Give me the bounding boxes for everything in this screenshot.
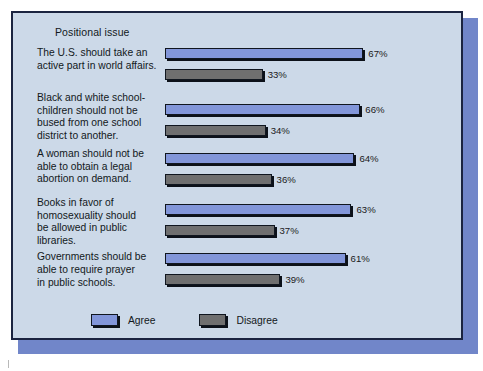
chart-row: The U.S. should take an active part in w… [13, 43, 461, 88]
row-bars: 61% 39% [165, 247, 461, 293]
bar-rows: The U.S. should take an active part in w… [13, 43, 461, 293]
bar-value-agree: 66% [365, 104, 384, 115]
bar-line-agree: 67% [165, 46, 461, 60]
bar-value-agree: 61% [351, 253, 370, 264]
bar-value-disagree: 39% [285, 274, 304, 285]
bar-agree[interactable] [165, 204, 351, 215]
chart-panel: Positional issue The U.S. should take an… [11, 11, 463, 340]
bar-agree[interactable] [165, 104, 360, 115]
page-corner-mark [8, 360, 9, 368]
bar-disagree[interactable] [165, 225, 275, 236]
bar-disagree[interactable] [165, 125, 266, 136]
chart-panel-inner: Positional issue The U.S. should take an… [13, 13, 461, 338]
bar-value-agree: 67% [368, 48, 387, 59]
bar-line-disagree: 33% [165, 67, 461, 81]
row-label-line: Governments should be [37, 251, 165, 264]
legend-item-disagree[interactable]: Disagree [199, 314, 277, 326]
bar-agree[interactable] [165, 153, 354, 164]
legend-swatch-agree-icon [91, 314, 118, 326]
legend-label-disagree: Disagree [236, 315, 277, 326]
bar-value-disagree: 34% [271, 125, 290, 136]
row-label-line: libraries. [37, 235, 165, 248]
row-label-line: Books in favor of [37, 197, 165, 210]
bar-line-disagree: 37% [165, 223, 461, 237]
row-bars: 66% 34% [165, 88, 461, 144]
row-label: A woman should not be able to obtain a l… [13, 144, 165, 186]
chart-row: A woman should not be able to obtain a l… [13, 144, 461, 193]
legend-label-agree: Agree [128, 315, 155, 326]
row-bars: 67% 33% [165, 43, 461, 88]
row-label-line: A woman should not be [37, 148, 165, 161]
bar-line-disagree: 34% [165, 123, 461, 137]
bar-line-agree: 63% [165, 202, 461, 216]
row-label: The U.S. should take an active part in w… [13, 43, 165, 72]
row-label-line: district to another. [37, 130, 165, 143]
row-bars: 63% 37% [165, 193, 461, 244]
bar-value-disagree: 33% [268, 69, 287, 80]
row-bars: 64% 36% [165, 144, 461, 193]
row-label-line: able to obtain a legal [37, 161, 165, 174]
row-label-line: active part in world affairs. [37, 60, 165, 73]
legend-swatch-disagree-icon [199, 314, 226, 326]
row-label: Black and white school- children should … [13, 88, 165, 142]
bar-agree[interactable] [165, 48, 363, 59]
chart-row: Governments should be able to require pr… [13, 247, 461, 293]
bar-line-disagree: 36% [165, 172, 461, 186]
chart-row: Black and white school- children should … [13, 88, 461, 144]
bar-disagree[interactable] [165, 174, 272, 185]
bar-disagree[interactable] [165, 69, 263, 80]
legend-item-agree[interactable]: Agree [91, 314, 155, 326]
chart-title: Positional issue [55, 26, 130, 38]
bar-value-disagree: 37% [280, 225, 299, 236]
row-label-line: abortion on demand. [37, 173, 165, 186]
bar-line-disagree: 39% [165, 272, 461, 286]
chart-row: Books in favor of homosexuality should b… [13, 193, 461, 247]
row-label-line: homosexuality should [37, 210, 165, 223]
row-label: Books in favor of homosexuality should b… [13, 193, 165, 247]
row-label-line: The U.S. should take an [37, 47, 165, 60]
row-label-line: Black and white school- [37, 92, 165, 105]
row-label-line: children should not be [37, 105, 165, 118]
bar-agree[interactable] [165, 253, 346, 264]
bar-line-agree: 61% [165, 251, 461, 265]
row-label-line: in public schools. [37, 277, 165, 290]
chart-legend: Agree Disagree [91, 314, 278, 326]
row-label-line: able to require prayer [37, 264, 165, 277]
bar-disagree[interactable] [165, 274, 280, 285]
bar-value-agree: 64% [359, 153, 378, 164]
row-label: Governments should be able to require pr… [13, 247, 165, 289]
row-label-line: be allowed in public [37, 222, 165, 235]
bar-line-agree: 64% [165, 151, 461, 165]
bar-value-disagree: 36% [277, 174, 296, 185]
row-label-line: bused from one school [37, 117, 165, 130]
bar-value-agree: 63% [356, 204, 375, 215]
bar-line-agree: 66% [165, 102, 461, 116]
